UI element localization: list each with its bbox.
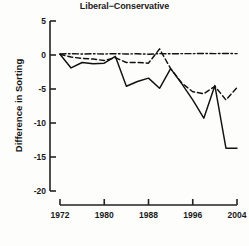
plot-canvas	[0, 0, 249, 246]
series-dashdot-line	[60, 54, 237, 55]
series-dashed-line	[60, 49, 237, 100]
data-series	[60, 49, 237, 148]
series-solid-line	[60, 54, 237, 148]
axes	[50, 21, 237, 205]
chart-figure: Liberal−Conservative Difference in Sorti…	[0, 0, 249, 246]
